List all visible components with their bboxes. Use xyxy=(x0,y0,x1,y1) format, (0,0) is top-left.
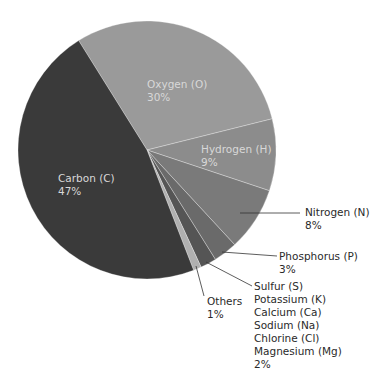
label-chlorine: Chlorine (Cl) xyxy=(254,332,342,345)
label-carbon: Carbon (C) 47% xyxy=(58,172,115,198)
label-minor-pct: 2% xyxy=(254,358,342,371)
label-others-name: Others xyxy=(207,295,242,308)
label-nitrogen-pct: 8% xyxy=(305,219,370,232)
label-carbon-name: Carbon (C) xyxy=(58,172,115,185)
label-others-pct: 1% xyxy=(207,308,242,321)
leader-phosphorus xyxy=(222,252,277,256)
label-nitrogen: Nitrogen (N) 8% xyxy=(305,206,370,232)
label-nitrogen-name: Nitrogen (N) xyxy=(305,206,370,219)
label-others: Others 1% xyxy=(207,295,242,321)
label-phosphorus-pct: 3% xyxy=(279,263,358,276)
label-hydrogen: Hydrogen (H) 9% xyxy=(201,143,272,169)
label-carbon-pct: 47% xyxy=(58,185,115,198)
label-oxygen-pct: 30% xyxy=(147,91,207,104)
leader-minor xyxy=(206,262,252,286)
leader-others xyxy=(196,266,204,296)
label-phosphorus: Phosphorus (P) 3% xyxy=(279,250,358,276)
label-hydrogen-pct: 9% xyxy=(201,156,272,169)
label-phosphorus-name: Phosphorus (P) xyxy=(279,250,358,263)
label-sodium: Sodium (Na) xyxy=(254,319,342,332)
label-potassium: Potassium (K) xyxy=(254,293,342,306)
label-hydrogen-name: Hydrogen (H) xyxy=(201,143,272,156)
label-sulfur: Sulfur (S) xyxy=(254,280,342,293)
label-oxygen-name: Oxygen (O) xyxy=(147,78,207,91)
label-oxygen: Oxygen (O) 30% xyxy=(147,78,207,104)
label-magnesium: Magnesium (Mg) xyxy=(254,345,342,358)
label-calcium: Calcium (Ca) xyxy=(254,306,342,319)
label-minor-elements: Sulfur (S) Potassium (K) Calcium (Ca) So… xyxy=(254,280,342,371)
